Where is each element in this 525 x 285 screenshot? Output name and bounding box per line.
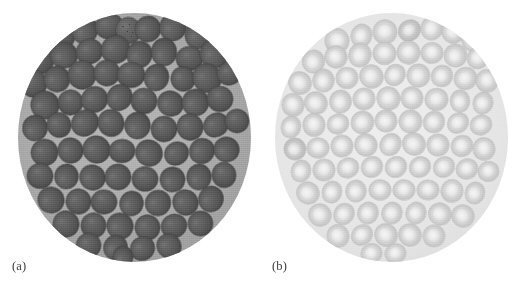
blood-cell [474,68,499,94]
blood-cell [416,179,439,200]
blood-cell [375,129,405,160]
blood-cell [312,158,336,182]
blood-cell [443,108,473,137]
blood-cell [211,134,241,164]
blood-cell [354,199,381,227]
blood-cell [132,167,158,192]
blood-cell [302,112,327,138]
blood-cell [422,85,450,113]
blood-cell [372,41,396,65]
blood-cell [278,114,303,141]
blood-cell [351,86,377,112]
panel-a: (a) [0,0,262,285]
blood-cell [453,156,481,183]
blood-cell [381,152,411,181]
panel-label-a: (a) [12,260,26,273]
blood-cell [108,138,136,163]
blood-cell [334,65,361,91]
blood-cell [467,112,495,139]
blood-cell [288,158,313,185]
blood-cell [206,86,233,113]
blood-cell [211,161,238,189]
blood-cell [421,42,443,64]
blood-cell [398,128,430,159]
blood-cell [397,83,427,113]
blood-cell [439,178,464,204]
blood-cell [475,158,501,183]
blood-cell [419,221,449,251]
blood-cell [429,152,459,181]
blood-cell [151,38,177,66]
blood-cell [471,136,496,162]
microscope-field-b [275,13,508,262]
blood-cell [470,89,496,116]
blood-cell [328,89,352,114]
blood-cell [345,179,367,202]
blood-cell [422,129,453,160]
blood-cell [91,189,118,214]
blood-cell [113,246,133,262]
blood-cell [130,87,158,114]
blood-cell [462,180,487,207]
blood-cell [393,179,416,200]
blood-cell [307,137,329,158]
cell-layer-b [275,13,508,262]
blood-cell [312,68,335,92]
blood-cell [357,152,387,182]
blood-cell [371,106,401,136]
panel-b: (b) [262,0,524,285]
blood-cell [319,179,344,206]
blood-cell [282,136,307,161]
blood-cell [223,107,251,136]
blood-cell [394,38,421,65]
blood-cell [327,131,357,161]
micrograph-figure: (a) (b) [0,0,525,285]
blood-cell [447,200,479,232]
blood-cell [27,163,54,189]
blood-cell [323,221,353,251]
blood-cell [369,179,391,200]
blood-cell [405,152,435,181]
blood-cell [419,107,449,137]
blood-cell [123,110,151,139]
blood-cell [450,90,470,112]
blood-cell [324,111,352,138]
cell-layer-a [18,13,251,262]
panel-label-b: (b) [272,260,287,273]
microscope-field-a [18,13,251,262]
blood-cell [334,155,362,182]
blood-cell [53,163,79,190]
